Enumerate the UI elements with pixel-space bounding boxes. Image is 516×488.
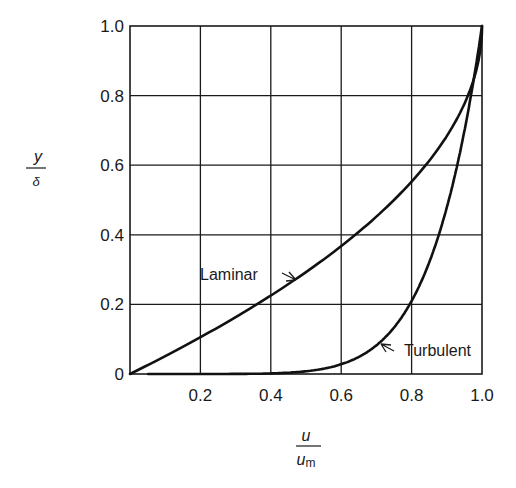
y-tick-label: 0 <box>115 365 124 384</box>
y-tick-labels: 00.20.40.60.81.0 <box>100 17 124 384</box>
series-turbulent <box>148 26 482 374</box>
curves <box>130 26 482 374</box>
series-laminar <box>130 26 482 374</box>
y-tick-label: 1.0 <box>100 17 124 36</box>
x-axis-label: u um <box>296 427 321 470</box>
x-tick-label: 0.6 <box>329 386 353 405</box>
x-tick-label: 1.0 <box>470 386 494 405</box>
svg-text:u: u <box>302 427 311 444</box>
annotation-turbulent-arrow <box>381 344 394 352</box>
svg-text:um: um <box>297 451 316 470</box>
plot-frame <box>130 26 482 374</box>
svg-text:y: y <box>33 148 43 165</box>
y-axis-label: y δ <box>26 148 46 189</box>
y-tick-label: 0.2 <box>100 295 124 314</box>
x-tick-label: 0.8 <box>400 386 424 405</box>
annotation-laminar-arrow <box>282 272 296 281</box>
x-tick-labels: 0.20.40.60.81.0 <box>189 386 494 405</box>
grid <box>130 26 482 374</box>
y-tick-label: 0.8 <box>100 87 124 106</box>
x-tick-label: 0.2 <box>189 386 213 405</box>
x-tick-label: 0.4 <box>259 386 283 405</box>
annotation-turbulent: Turbulent <box>404 342 472 359</box>
annotation-laminar: Laminar <box>200 266 258 283</box>
velocity-profile-chart: 00.20.40.60.81.0 0.20.40.60.81.0 Laminar… <box>0 0 516 488</box>
svg-text:δ: δ <box>32 174 40 189</box>
y-tick-label: 0.4 <box>100 226 124 245</box>
y-tick-label: 0.6 <box>100 156 124 175</box>
